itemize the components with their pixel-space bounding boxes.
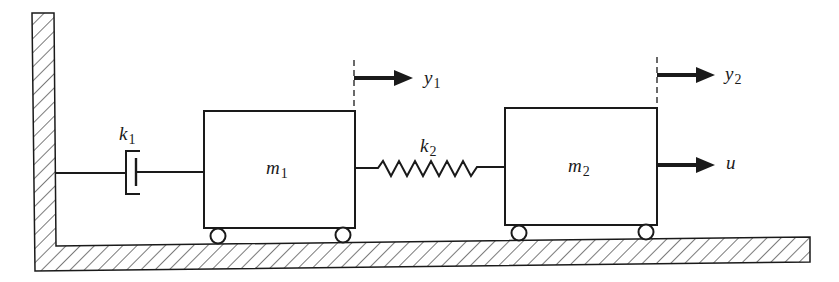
symbol: y (424, 67, 432, 88)
damper-k1-label: k1 (119, 124, 135, 147)
wheel-icon (639, 225, 654, 240)
displacement-y1-label: y1 (424, 68, 440, 91)
displacement-y1-arrow (354, 60, 413, 111)
subscript: 1 (433, 76, 440, 91)
symbol: u (726, 152, 736, 173)
wheel-icon (211, 229, 226, 244)
subscript: 1 (128, 132, 135, 147)
symbol: y (725, 63, 733, 84)
symbol: m (568, 155, 582, 176)
symbol: k (119, 123, 127, 144)
subscript: 2 (429, 144, 436, 159)
input-force-u-label: u (726, 153, 736, 172)
subscript: 1 (281, 166, 288, 181)
wheel-icon (336, 228, 351, 243)
mass-spring-damper-diagram: k1 m1 k2 m2 y1 y2 u (0, 0, 839, 282)
symbol: m (266, 157, 280, 178)
damper-k1 (56, 151, 204, 194)
mass-m1-label: m1 (266, 158, 288, 181)
subscript: 2 (583, 164, 590, 179)
symbol: k (420, 135, 428, 156)
mass-m2-label: m2 (568, 156, 590, 179)
subscript: 2 (734, 72, 741, 87)
spring-k2-label: k2 (420, 136, 436, 159)
spring-k2 (355, 161, 505, 176)
wheel-icon (512, 226, 527, 241)
input-force-u-arrow (657, 157, 715, 173)
displacement-y2-label: y2 (725, 64, 741, 87)
displacement-y2-arrow (657, 57, 715, 108)
